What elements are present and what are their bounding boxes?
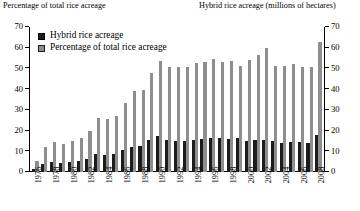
x-tick-slot: 2000 (243, 174, 252, 211)
bar-percentage-total (203, 62, 206, 172)
x-tick-slot: 1992 (173, 174, 182, 211)
bar-percentage-total (168, 67, 171, 172)
bar-percentage-total (142, 90, 145, 172)
legend-label: Percentage of total rice acreage (50, 43, 167, 52)
x-tick-slot: 2006 (296, 174, 305, 211)
x-tick-slot (146, 174, 155, 211)
bar-percentage-total (265, 48, 268, 172)
y-tick-label-right-30: 30 (331, 105, 340, 114)
y-tick-right-40 (325, 88, 329, 89)
bar-percentage-total (230, 61, 233, 172)
x-tick-slot (287, 174, 296, 211)
bar-group (173, 27, 182, 172)
bar-percentage-total (150, 73, 153, 172)
bar-group (270, 27, 279, 172)
bar-percentage-total (257, 55, 260, 172)
bar-group (217, 27, 226, 172)
x-tick-slot (111, 174, 120, 211)
y-tick-right-70 (325, 26, 329, 27)
x-tick-slot (252, 174, 261, 211)
y-tick-label-left-50: 50 (14, 64, 23, 73)
x-tick-slot: 2008 (314, 174, 323, 211)
x-tick-slot: 1980 (66, 174, 75, 211)
bar-group (305, 27, 314, 172)
bar-group (181, 27, 190, 172)
x-tick-slot (40, 174, 49, 211)
left-axis-title: Percentage of total rice acreage (3, 1, 106, 10)
bar-group (314, 27, 323, 172)
x-tick-slot (217, 174, 226, 211)
bar-group (287, 27, 296, 172)
y-tick-label-right-60: 60 (331, 43, 340, 52)
y-tick-label-left-30: 30 (14, 105, 23, 114)
y-tick-label-right-50: 50 (331, 64, 340, 73)
bar-percentage-total (212, 59, 215, 172)
y-tick-label-right-40: 40 (331, 85, 340, 94)
bar-percentage-total (248, 60, 251, 172)
x-tick-slot: 2004 (279, 174, 288, 211)
bar-percentage-total (292, 64, 295, 172)
x-tick-slot (164, 174, 173, 211)
x-tick-slot: 1984 (102, 174, 111, 211)
x-tick-slot: 1986 (119, 174, 128, 211)
legend-item: Percentage of total rice acreage (38, 42, 167, 54)
x-tick-slot: 1988 (137, 174, 146, 211)
y-tick-label-left-70: 70 (14, 22, 23, 31)
y-tick-right-60 (325, 47, 329, 48)
bar-group (199, 27, 208, 172)
x-tick-slot: 1998 (226, 174, 235, 211)
x-tick-label-2008: 2008 (318, 167, 326, 184)
x-tick-slot (270, 174, 279, 211)
bar-percentage-total (44, 147, 47, 172)
bar-percentage-total (177, 67, 180, 172)
bar-percentage-total (115, 116, 118, 172)
x-tick-slot: 2002 (261, 174, 270, 211)
bar-group (208, 27, 217, 172)
legend-label: Hybrid rice acreage (50, 31, 123, 40)
x-tick-slot (93, 174, 102, 211)
bar-percentage-total (301, 67, 304, 172)
y-tick-label-left-0: 0 (19, 167, 23, 176)
bar-group (226, 27, 235, 172)
x-tick-slot: 1978 (49, 174, 58, 211)
y-tick-right-50 (325, 67, 329, 68)
bar-percentage-total (239, 66, 242, 172)
bar-percentage-total (318, 42, 321, 173)
x-tick-slot: 1990 (155, 174, 164, 211)
bar-group (279, 27, 288, 172)
bar-percentage-total (310, 67, 313, 172)
y-tick-label-right-10: 10 (331, 147, 340, 156)
x-tick-slot (234, 174, 243, 211)
x-tick-slot: 1996 (208, 174, 217, 211)
bar-percentage-total (195, 63, 198, 172)
bar-percentage-total (62, 144, 65, 172)
y-tick-label-left-40: 40 (14, 85, 23, 94)
x-tick-slot (75, 174, 84, 211)
bar-percentage-total (106, 119, 109, 172)
x-tick-slot (58, 174, 67, 211)
y-tick-right-20 (325, 130, 329, 131)
y-tick-right-30 (325, 109, 329, 110)
right-axis-title: Hybrid rice acreage (millions of hectare… (199, 1, 336, 10)
bar-percentage-total (133, 91, 136, 172)
bar-group (190, 27, 199, 172)
bar-percentage-total (283, 66, 286, 172)
x-tick-slot: 1982 (84, 174, 93, 211)
y-tick-label-right-70: 70 (331, 22, 340, 31)
x-tick-slot (181, 174, 190, 211)
bar-group (261, 27, 270, 172)
chart-container: Percentage of total rice acreage Hybrid … (0, 0, 360, 211)
bar-group (243, 27, 252, 172)
bar-percentage-total (124, 103, 127, 172)
bar-percentage-total (97, 118, 100, 172)
y-tick-label-left-60: 60 (14, 43, 23, 52)
bar-group (234, 27, 243, 172)
y-tick-label-right-20: 20 (331, 126, 340, 135)
x-tick-slot: 1976 (31, 174, 40, 211)
legend-item: Hybrid rice acreage (38, 30, 167, 42)
y-tick-label-left-10: 10 (14, 147, 23, 156)
x-tick-slot: 1994 (190, 174, 199, 211)
x-tick-slot (305, 174, 314, 211)
legend-swatch-dark (38, 33, 45, 40)
legend-swatch-grey (38, 45, 45, 52)
